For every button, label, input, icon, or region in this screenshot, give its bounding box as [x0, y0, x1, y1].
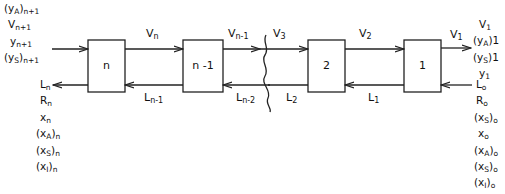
outlet-x: xn: [36, 111, 60, 127]
stage-label-n: n: [88, 59, 125, 72]
inlet-x0: xo: [474, 127, 498, 143]
top-yS1: (yS)1: [473, 51, 499, 67]
top-yA1: (yA)1: [473, 34, 499, 50]
inlet-y: yn+1: [4, 35, 39, 51]
outlet-xI: (xI)n: [36, 160, 60, 176]
inlet-xA0: (xA)o: [474, 144, 498, 160]
inlet-xS0-a: (xS)o: [474, 111, 498, 127]
stage-label-2: 2: [308, 59, 345, 72]
left-outlet-labels: Ln Rn xn (xA)n (xS)n (xI)n: [36, 78, 60, 176]
stage-label-n-1: n -1: [183, 59, 223, 72]
right-inlet-labels: Lo Ro (xS)o xo (xA)o (xS)o (xI)o: [474, 78, 498, 193]
liquid-label-n-2: Ln-2: [236, 91, 255, 108]
liquid-label-1: L1: [368, 91, 379, 108]
inlet-xS0-b: (xS)o: [474, 160, 498, 176]
inlet-R0: Ro: [474, 94, 498, 110]
outlet-R: Rn: [36, 94, 60, 110]
liquid-label-2: L2: [286, 91, 297, 108]
outlet-xA: (xA)n: [36, 127, 60, 143]
inlet-V: Vn+1: [4, 18, 39, 34]
vapor-label-n: Vn: [146, 27, 159, 44]
inlet-L0: Lo: [474, 78, 498, 94]
stage-label-1: 1: [404, 59, 441, 72]
inlet-yA: (yA)n+1: [4, 2, 39, 18]
vapor-label-3: V3: [273, 27, 286, 44]
vapor-label-1: V1: [450, 28, 463, 45]
outlet-L: Ln: [36, 78, 60, 94]
break-squiggle: [264, 35, 271, 112]
liquid-label-n-1: Ln-1: [144, 91, 163, 108]
outlet-xS: (xS)n: [36, 144, 60, 160]
left-inlet-labels: (yA)n+1 Vn+1 yn+1 (yS)n+1: [4, 2, 39, 68]
vapor-label-2: V2: [359, 27, 372, 44]
inlet-xI0: (xI)o: [474, 176, 498, 192]
top-V1: V1: [473, 18, 499, 34]
inlet-yS: (yS)n+1: [4, 51, 39, 67]
vapor-label-n-1: Vn-1: [228, 27, 249, 44]
right-outlet-labels: V1 (yA)1 (yS)1 y1: [473, 18, 499, 84]
